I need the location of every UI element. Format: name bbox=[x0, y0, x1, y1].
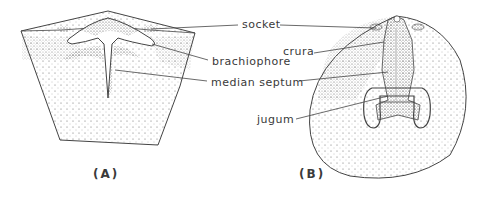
caption-panel-b: (B) bbox=[299, 168, 325, 180]
label-crura: crura bbox=[283, 46, 314, 57]
figure-canvas: socket brachiophore median septum crura … bbox=[0, 0, 504, 197]
label-brachiophore: brachiophore bbox=[212, 56, 291, 67]
label-median-septum: median septum bbox=[211, 77, 304, 88]
caption-panel-a: (A) bbox=[93, 168, 119, 180]
label-socket: socket bbox=[242, 19, 281, 30]
label-jugum: jugum bbox=[257, 114, 294, 125]
panel-a-drawing bbox=[21, 11, 195, 145]
panel-b-drawing bbox=[310, 16, 467, 178]
